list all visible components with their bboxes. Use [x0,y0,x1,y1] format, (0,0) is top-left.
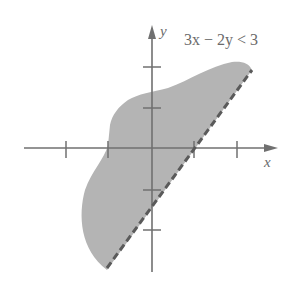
inequality-graph: x y 3x − 2y < 3 [0,0,291,291]
y-axis-label: y [158,23,167,39]
x-axis-label: x [263,154,271,170]
shaded-region [82,62,252,270]
inequality-label: 3x − 2y < 3 [184,31,258,49]
